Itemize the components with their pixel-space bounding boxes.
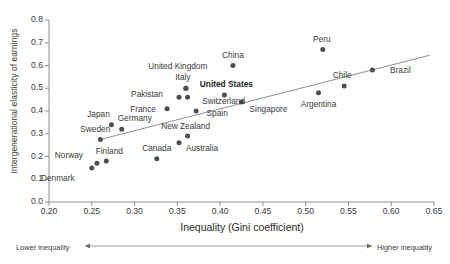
point-label: Peru [313,34,331,44]
x-tick-label: 0.50 [286,206,326,216]
point-label: Australia [186,143,218,153]
x-tick-label: 0.60 [371,206,411,216]
data-point [165,106,170,111]
data-point [185,95,190,100]
y-tick-label: 0.6 [13,60,43,70]
data-point [177,140,182,145]
x-tick-label: 0.25 [72,206,112,216]
data-point [342,83,347,88]
data-point [154,156,159,161]
point-label: France [130,104,156,114]
data-point [119,127,124,132]
point-label: Japan [87,109,110,119]
point-label: New Zealand [161,121,210,131]
point-label: Argentina [301,99,337,109]
y-tick-label: 0.3 [13,128,43,138]
point-label: United Kingdom [148,61,207,71]
x-tick-label: 0.65 [414,206,450,216]
x-tick-label: 0.35 [157,206,197,216]
point-label: Switzerland [202,96,245,106]
data-point [320,47,325,52]
x-axis-title: Inequality (Gini coefficient) [49,221,435,233]
point-label: Sweden [80,124,110,134]
higher-inequality-label: Higher inequality [377,243,432,252]
data-point [177,95,182,100]
y-tick-label: 0.5 [13,82,43,92]
point-label: Norway [55,150,83,160]
data-point [89,165,94,170]
y-tick-label: 0.4 [13,105,43,115]
point-label: Brazil [390,65,411,75]
scatter-chart: Intergenerational elasticity of earnings… [0,0,450,264]
y-tick-label: 0.8 [13,14,43,24]
point-label: Pakistan [131,89,163,99]
data-point [98,137,103,142]
point-label: Canada [142,143,171,153]
x-tick-label: 0.55 [328,206,368,216]
x-tick-label: 0.20 [29,206,69,216]
data-point [194,109,199,114]
y-axis-title: Intergenerational elasticity of earnings [9,1,19,201]
y-tick-label: 0.0 [13,196,43,206]
x-tick-label: 0.30 [115,206,155,216]
lower-inequality-label: Lower inequality [16,243,69,252]
data-point [185,134,190,139]
data-point [104,159,109,164]
point-label: Spain [207,108,228,118]
point-label: China [222,50,244,60]
point-label: Finland [96,146,123,156]
x-tick-label: 0.40 [200,206,240,216]
x-tick-label: 0.45 [243,206,283,216]
point-label: Singapore [250,104,288,114]
point-label: Denmark [41,173,75,183]
inequality-arrow-annotation [85,244,372,249]
point-label: United States [200,79,253,89]
y-tick-label: 0.7 [13,37,43,47]
data-point [94,161,99,166]
point-label: Germany [118,113,152,123]
data-point [230,63,235,68]
data-point [370,68,375,73]
y-tick-label: 0.2 [13,151,43,161]
point-label: Italy [175,72,190,82]
point-label: Chile [333,70,352,80]
data-point [316,90,321,95]
data-point [183,86,188,91]
y-tick-label: 0.1 [13,173,43,183]
